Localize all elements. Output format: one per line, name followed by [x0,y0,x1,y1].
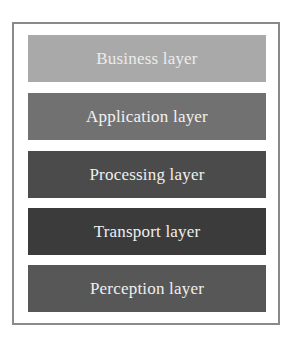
layer-business: Business layer [28,35,266,82]
layer-label: Processing layer [89,166,204,183]
layer-transport: Transport layer [28,208,266,255]
layer-label: Perception layer [90,280,204,297]
layer-perception: Perception layer [28,265,266,312]
layer-label: Business layer [96,50,197,67]
layer-label: Application layer [86,108,208,125]
layer-label: Transport layer [94,223,201,240]
layer-application: Application layer [28,93,266,140]
layer-processing: Processing layer [28,151,266,198]
